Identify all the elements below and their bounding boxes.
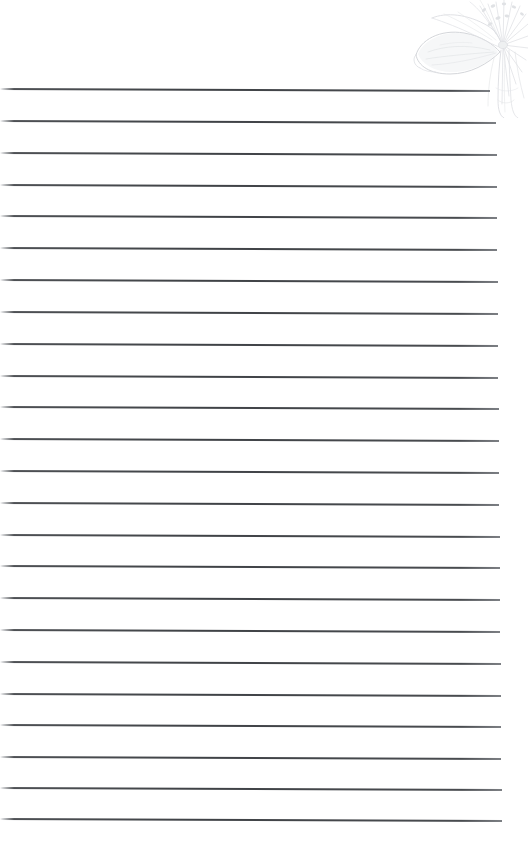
rule-line xyxy=(0,597,500,601)
lined-stationery-page xyxy=(0,0,528,866)
rule-line xyxy=(0,406,499,410)
rule-line xyxy=(0,787,502,791)
rule-line xyxy=(0,184,497,188)
rule-line xyxy=(0,629,500,633)
rule-line xyxy=(0,152,497,156)
rule-line xyxy=(0,502,499,506)
ruled-lines-group xyxy=(0,0,528,866)
rule-line xyxy=(0,756,501,760)
rule-line xyxy=(0,724,501,728)
rule-line xyxy=(0,120,496,124)
rule-line xyxy=(0,565,500,569)
rule-line xyxy=(0,661,501,665)
rule-line xyxy=(0,311,498,315)
rule-line xyxy=(0,693,501,697)
rule-line xyxy=(0,818,502,822)
rule-line xyxy=(0,215,497,219)
rule-line xyxy=(0,247,497,251)
rule-line xyxy=(0,534,500,538)
rule-line xyxy=(0,343,498,347)
rule-line xyxy=(0,470,499,474)
rule-line xyxy=(0,438,499,442)
rule-line xyxy=(0,88,490,92)
rule-line xyxy=(0,279,498,283)
rule-line xyxy=(0,375,498,379)
